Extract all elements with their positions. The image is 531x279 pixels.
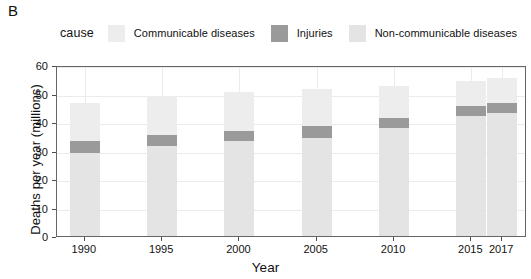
legend-swatch-injuries [271, 25, 288, 42]
bar-segment-2005-injuries [302, 126, 332, 137]
legend-label-non-communicable-diseases: Non-communicable diseases [375, 27, 517, 39]
y-axis-tick-label: 0 [14, 231, 48, 243]
plot-area [56, 66, 526, 237]
y-axis-tick-mark [52, 95, 56, 96]
y-axis-tick-mark [52, 209, 56, 210]
bar-segment-2010-non-communicable-diseases [379, 128, 409, 236]
bar-2010[interactable] [379, 66, 409, 236]
x-axis-tick-label: 1990 [54, 243, 114, 255]
bar-segment-2000-communicable-diseases [224, 92, 254, 130]
panel-label: B [8, 3, 18, 18]
x-axis-tick-label: 2017 [471, 243, 531, 255]
x-axis-tick-label: 2010 [363, 243, 423, 255]
y-axis-tick-mark [52, 123, 56, 124]
y-axis-tick-mark [52, 66, 56, 67]
bar-2017[interactable] [487, 66, 517, 236]
bar-segment-2005-non-communicable-diseases [302, 138, 332, 236]
bar-segment-2015-communicable-diseases [456, 81, 486, 107]
gridline-horizontal [57, 96, 525, 97]
y-axis-tick-label: 40 [14, 117, 48, 129]
gridline-horizontal [57, 181, 525, 182]
y-axis-tick-label: 50 [14, 89, 48, 101]
bar-segment-2017-communicable-diseases [487, 78, 517, 104]
x-axis-tick-mark [84, 237, 85, 241]
gridline-horizontal [57, 153, 525, 154]
x-axis-tick-label: 2000 [208, 243, 268, 255]
x-axis-tick-mark [238, 237, 239, 241]
legend-item-injuries: Injuries [271, 25, 333, 42]
legend-label-injuries: Injuries [297, 27, 333, 39]
y-axis-tick-label: 60 [14, 60, 48, 72]
bar-2000[interactable] [224, 66, 254, 236]
x-axis-tick-label: 2005 [286, 243, 346, 255]
bar-2005[interactable] [302, 66, 332, 236]
gridline-horizontal [57, 124, 525, 125]
bar-segment-1990-injuries [70, 141, 100, 154]
bar-segment-1990-communicable-diseases [70, 103, 100, 140]
bar-segment-1995-injuries [147, 135, 177, 146]
y-axis-tick-label: 30 [14, 146, 48, 158]
y-axis-tick-label: 20 [14, 174, 48, 186]
bar-1995[interactable] [147, 66, 177, 236]
legend-title: cause [60, 26, 94, 40]
x-axis-tick-mark [161, 237, 162, 241]
legend-swatch-non-communicable-diseases [349, 25, 366, 42]
y-axis-tick-mark [52, 237, 56, 238]
y-axis-tick-mark [52, 180, 56, 181]
bar-segment-2017-non-communicable-diseases [487, 113, 517, 236]
bar-segment-2015-injuries [456, 106, 486, 116]
bar-segment-1990-non-communicable-diseases [70, 153, 100, 236]
gridline-horizontal [57, 67, 525, 68]
bar-segment-2000-injuries [224, 131, 254, 141]
legend-item-non-communicable-diseases: Non-communicable diseases [349, 25, 517, 42]
bar-2015[interactable] [456, 66, 486, 236]
bar-segment-2010-injuries [379, 118, 409, 128]
x-axis-tick-mark [316, 237, 317, 241]
y-axis-tick-label: 10 [14, 203, 48, 215]
legend-label-communicable-diseases: Communicable diseases [134, 27, 255, 39]
legend-item-communicable-diseases: Communicable diseases [108, 25, 255, 42]
x-axis-tick-mark [470, 237, 471, 241]
bar-segment-2005-communicable-diseases [302, 89, 332, 126]
bar-segment-2000-non-communicable-diseases [224, 141, 254, 236]
x-axis-tick-mark [393, 237, 394, 241]
x-axis-label: Year [0, 260, 531, 275]
bar-segment-2015-non-communicable-diseases [456, 116, 486, 236]
x-axis-tick-label: 1995 [131, 243, 191, 255]
bar-segment-2017-injuries [487, 103, 517, 113]
legend-swatch-communicable-diseases [108, 25, 125, 42]
x-axis-tick-mark [501, 237, 502, 241]
y-axis-tick-mark [52, 152, 56, 153]
bar-segment-2010-communicable-diseases [379, 86, 409, 117]
gridline-horizontal [57, 210, 525, 211]
bar-segment-1995-non-communicable-diseases [147, 146, 177, 236]
chart-legend: cause Communicable diseases Injuries Non… [60, 24, 531, 42]
bar-segment-1995-communicable-diseases [147, 96, 177, 134]
bar-1990[interactable] [70, 66, 100, 236]
